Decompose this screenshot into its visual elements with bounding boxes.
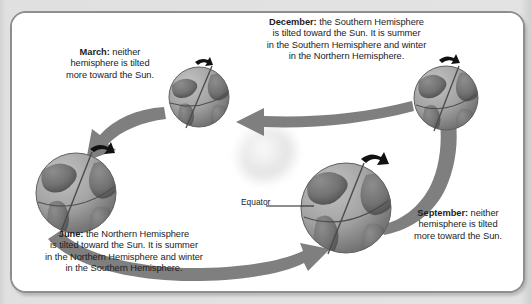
globe-march (169, 57, 230, 129)
caption-march-month: March: (80, 47, 110, 57)
caption-december-month: December: (269, 17, 317, 27)
caption-september: September: neither hemisphere is tilted … (390, 208, 523, 242)
equator-label: Equator (241, 197, 270, 207)
globe-december (414, 54, 480, 135)
orbit-arrow-march-to-june (86, 107, 166, 161)
caption-december: December: the Southern Hemisphere is til… (244, 17, 449, 63)
rotation-arrow-march (195, 57, 213, 66)
figure-frame: December: the Southern Hemisphere is til… (10, 11, 525, 293)
cutoff-text-fragment (0, 0, 531, 3)
figure-canvas: December: the Southern Hemisphere is til… (12, 13, 523, 291)
globe-june (36, 142, 119, 238)
caption-september-month: September: (417, 208, 468, 218)
seasons-figure: December: the Southern Hemisphere is til… (0, 0, 531, 304)
orbit-arrow-december-to-march (236, 101, 414, 136)
rotation-arrow-september (361, 152, 389, 165)
caption-march: March: neither hemisphere is tilted more… (50, 47, 170, 81)
caption-june: June: the Northern Hemisphere is tilted … (14, 229, 234, 275)
globe-september (301, 152, 395, 258)
caption-june-month: June: (59, 229, 84, 239)
sun (239, 127, 297, 185)
